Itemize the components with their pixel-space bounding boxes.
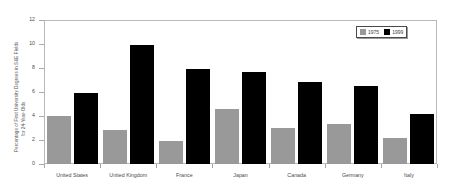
bar-group [159,20,210,164]
bar-1999[interactable] [354,86,378,164]
chart-legend[interactable]: 19751999 [356,26,407,38]
bar-group [103,20,154,164]
legend-label-1999: 1999 [392,29,403,35]
x-axis-label-france: France [176,172,193,178]
y-axis-tick-label: 6 [32,88,35,94]
x-axis-tick-mark [212,164,213,168]
y-axis-tick-label: 2 [32,136,35,142]
x-axis-label-germany: Germany [342,172,364,178]
bar-series-container [44,20,437,164]
x-axis-label-united-kingdom: United Kingdom [109,172,147,178]
x-axis-tick-mark [156,164,157,168]
x-axis-tick-mark [269,164,270,168]
x-axis-tick-mark [381,164,382,168]
bar-1999[interactable] [298,82,322,164]
x-axis-label-united-states: United States [56,172,88,178]
bar-1975[interactable] [159,141,183,164]
x-axis-label-italy: Italy [404,172,414,178]
x-axis-tick-mark [437,164,438,168]
bar-group [47,20,98,164]
x-axis-tick-mark [325,164,326,168]
bar-1999[interactable] [242,72,266,164]
y-axis-tick-label: 10 [29,40,35,46]
bar-1999[interactable] [130,45,154,164]
y-axis-title-line-2: for 24-Year-Olds [21,102,27,136]
chart-figure: Percentage of First University Degrees i… [0,0,455,194]
y-axis-tick-label: 8 [32,64,35,70]
bar-group [271,20,322,164]
x-axis-label-canada: Canada [287,172,306,178]
y-axis-tick-label: 0 [32,160,35,166]
y-axis-title: Percentage of First University Degrees i… [0,0,30,194]
y-axis-title-line-1: Percentage of First University Degrees i… [14,42,20,152]
bar-1975[interactable] [383,138,407,164]
bar-group [215,20,266,164]
x-axis-tick-mark [100,164,101,168]
bar-group [327,20,378,164]
bar-1975[interactable] [103,130,127,164]
bar-group [383,20,434,164]
legend-swatch-1975 [360,29,366,35]
bar-1975[interactable] [215,109,239,164]
legend-entry-1975[interactable]: 1975 [360,29,379,35]
x-axis-tick-mark [44,164,45,168]
x-axis-label-japan: Japan [233,172,247,178]
bar-1999[interactable] [410,114,434,164]
bar-1975[interactable] [47,116,71,164]
legend-entry-1999[interactable]: 1999 [384,29,403,35]
bar-1975[interactable] [271,128,295,164]
bar-1999[interactable] [74,93,98,164]
bar-1999[interactable] [186,69,210,164]
bar-1975[interactable] [327,124,351,164]
legend-swatch-1999 [384,29,390,35]
y-axis-tick-label: 4 [32,112,35,118]
legend-label-1975: 1975 [368,29,379,35]
y-axis-tick-label: 12 [29,16,35,22]
x-axis: United StatesUnited KingdomFranceJapanCa… [44,164,437,194]
